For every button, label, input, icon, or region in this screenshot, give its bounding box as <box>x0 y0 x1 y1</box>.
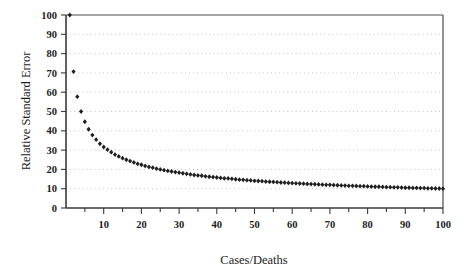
y-axis-tick-label: 30 <box>47 145 58 156</box>
y-axis-tick-label: 60 <box>47 87 58 98</box>
y-axis-tick-label: 50 <box>47 106 58 117</box>
chart-background <box>0 0 472 280</box>
x-axis-tick-label: 70 <box>325 219 336 230</box>
y-axis-tick-label: 100 <box>41 10 57 21</box>
x-axis-tick-label: 80 <box>362 219 373 230</box>
y-axis-tick-label: 0 <box>52 203 57 214</box>
y-axis-tick-label: 90 <box>47 29 58 40</box>
y-axis-tick-label: 40 <box>47 125 58 136</box>
x-axis-tick-label: 20 <box>136 219 147 230</box>
chart-figure: 102030405060708090100 010203040506070809… <box>0 0 472 280</box>
y-axis-tick-label: 10 <box>47 183 58 194</box>
y-axis-tick-label: 20 <box>47 164 58 175</box>
y-axis-tick-label: 80 <box>47 48 58 59</box>
y-axis-tick-label: 70 <box>47 68 58 79</box>
x-axis-tick-label: 30 <box>174 219 185 230</box>
x-axis-tick-label: 50 <box>249 219 260 230</box>
x-axis-tick-label: 40 <box>212 219 223 230</box>
x-axis-tick-label: 60 <box>287 219 298 230</box>
y-axis-title: Relative Standard Error <box>19 51 33 171</box>
x-axis-tick-label: 100 <box>435 219 451 230</box>
x-axis-tick-label: 90 <box>400 219 411 230</box>
x-axis-title: Cases/Deaths <box>220 253 287 267</box>
relative-standard-error-scatter-chart: 102030405060708090100 010203040506070809… <box>0 0 472 280</box>
x-axis-tick-label: 10 <box>98 219 109 230</box>
